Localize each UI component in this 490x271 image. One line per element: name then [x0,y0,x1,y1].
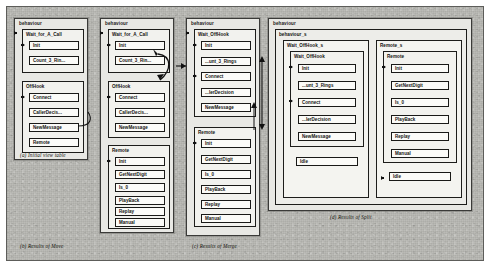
state-item[interactable]: Connect [115,93,165,102]
panel-b-root-label: behaviour [105,21,128,26]
caption-b: (b) Results of Move [20,243,63,249]
group-remote-s[interactable]: Remote_s Remote Init GetNextDigit Is_0 P… [376,40,462,198]
state-item[interactable]: Init [115,157,165,166]
state-item[interactable]: Count_3_Rin... [29,56,79,65]
marker-icon [290,65,293,69]
state-item[interactable]: Connect [298,98,356,107]
state-item[interactable]: Is_0 [115,183,165,192]
group-wait-offhook[interactable]: Wait_OffHook Init ...unt_3_Rings Connect… [194,29,256,117]
marker-icon [186,31,189,35]
state-item[interactable]: Is_0 [391,98,449,107]
state-item[interactable]: Init [201,41,251,50]
state-item[interactable]: Replay [115,207,165,216]
marker-icon [108,159,111,163]
group-label: Remote [112,148,129,153]
group-label: Wait_OffHook [294,54,325,59]
marker-icon [194,141,197,145]
group-label: Remote_s [380,43,402,48]
state-item[interactable]: Init [201,139,251,148]
marker-icon [14,31,17,35]
group-label: Wait_OffHook_s [287,43,323,48]
state-item[interactable]: NewMessage [298,132,356,141]
state-item[interactable]: PlayBack [391,115,449,124]
group-remote[interactable]: Remote Init GetNextDigit Is_0 PlayBack R… [194,127,256,227]
marker-icon [381,176,384,180]
marker-icon [194,74,197,78]
group-wait-offhook[interactable]: Wait_OffHook Init ...unt_3_Rings Connect… [290,51,364,147]
panel-b[interactable]: behaviour Wait_for_A_Call Init Count_3_R… [100,18,174,233]
group-label: OffHook [112,84,130,89]
caption-a: (a) Initial view table [20,152,66,158]
group-wait-for-a-call[interactable]: Wait_for_A_Call Init Count_3_Rin... [22,29,84,73]
state-item-idle[interactable]: Idle [389,172,451,181]
group-offhook[interactable]: OffHook Connect CallerDecis... NewMessag… [108,81,170,138]
panel-a-root-label: behaviour [19,21,42,26]
state-item[interactable]: Connect [201,72,251,81]
panel-d[interactable]: behaviour behaviour_s Wait_OffHook_s Wai… [268,18,472,211]
state-item[interactable]: Manual [201,214,251,223]
state-item-idle[interactable]: Idle [296,157,358,166]
marker-icon [100,31,103,35]
state-item[interactable]: Init [298,64,356,73]
group-label: Wait_for_A_Call [26,32,62,37]
group-label: Remote [198,130,215,135]
panel-c-root-label: behaviour [191,21,214,26]
marker-icon [22,43,25,47]
state-item[interactable]: ...lerDecision [201,88,251,97]
marker-icon [290,99,293,103]
state-item[interactable]: Manual [115,218,165,227]
state-item[interactable]: CallerDecis... [29,108,79,117]
state-item[interactable]: Count_3_Rin... [115,56,165,65]
state-item[interactable]: GetNextDigit [115,170,165,179]
state-item[interactable]: PlayBack [115,196,165,205]
state-item[interactable]: Connect [29,93,79,102]
state-item[interactable]: Replay [391,132,449,141]
group-remote[interactable]: Remote Init GetNextDigit Is_0 PlayBack R… [108,145,170,229]
state-item[interactable]: ...unt_3_Rings [201,57,251,66]
state-item[interactable]: Remote [29,138,79,147]
state-item[interactable]: ...lerDecision [298,115,356,124]
state-item[interactable]: PlayBack [201,185,251,194]
marker-icon [383,65,386,69]
state-item[interactable]: Init [29,41,79,50]
group-label: Wait_OffHook [198,32,229,37]
state-item[interactable]: ...unt_3_Rings [298,81,356,90]
group-label: Wait_for_A_Call [112,32,148,37]
group-label: OffHook [26,84,44,89]
panel-c[interactable]: behaviour Wait_OffHook Init ...unt_3_Rin… [186,18,260,236]
group-offhook[interactable]: OffHook Connect CallerDecis... NewMessag… [22,81,84,153]
group-label: Remote [387,54,404,59]
marker-icon [194,43,197,47]
panel-d-root-label: behaviour [273,21,296,26]
state-item[interactable]: Manual [391,149,449,158]
state-item[interactable]: NewMessage [29,123,79,132]
marker-icon [22,95,25,99]
figure-root: PAGE SCAN behaviour Wait_for_A_Call Init… [0,0,490,271]
group-remote[interactable]: Remote Init GetNextDigit Is_0 PlayBack R… [383,51,457,163]
group-behaviour-s[interactable]: behaviour_s Wait_OffHook_s Wait_OffHook … [275,29,467,205]
state-item[interactable]: CallerDecis... [115,108,165,117]
state-item[interactable]: Is_0 [201,170,251,179]
group-wait-offhook-s[interactable]: Wait_OffHook_s Wait_OffHook Init ...unt_… [283,40,369,198]
state-item[interactable]: GetNextDigit [391,81,449,90]
group-label: behaviour_s [279,32,307,37]
state-item[interactable]: Replay [201,200,251,209]
panel-a[interactable]: behaviour Wait_for_A_Call Init Count_3_R… [14,18,88,160]
marker-icon [108,43,111,47]
state-item[interactable]: NewMessage [201,103,251,112]
caption-c: (c) Results of Merge [192,243,237,249]
marker-icon [108,95,111,99]
state-item[interactable]: Init [115,41,165,50]
state-item[interactable]: NewMessage [115,123,165,132]
state-item[interactable]: GetNextDigit [201,155,251,164]
group-wait-for-a-call[interactable]: Wait_for_A_Call Init Count_3_Rin... [108,29,170,73]
state-item[interactable]: Init [391,64,449,73]
caption-d: (d) Results of Split [330,214,371,220]
